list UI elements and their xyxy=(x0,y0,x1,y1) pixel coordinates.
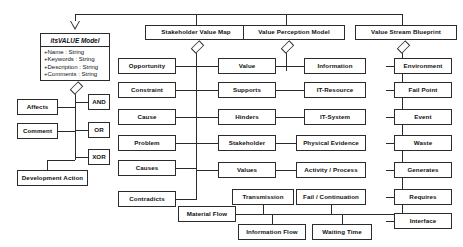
node-stakeholder-value-map[interactable]: Stakeholder Value Map xyxy=(145,25,247,40)
flow-drop-transmission xyxy=(263,205,264,214)
generalization-drop-svm xyxy=(196,14,197,25)
node-environment[interactable]: Environment xyxy=(394,58,452,74)
node-values[interactable]: Values xyxy=(218,162,276,178)
node-activity-process[interactable]: Activity / Process xyxy=(296,162,366,178)
connector-problem xyxy=(176,143,196,144)
generalization-drop-vpm xyxy=(286,14,287,25)
connector-or xyxy=(75,130,88,131)
connector-causes xyxy=(176,168,196,169)
node-causes[interactable]: Causes xyxy=(118,160,176,176)
node-contradicts[interactable]: Contradicts xyxy=(118,191,176,207)
flow-bus-line xyxy=(236,214,402,215)
connector-values xyxy=(196,170,218,171)
class-attribute: +Description : String xyxy=(44,64,106,72)
node-physical-evidence[interactable]: Physical Evidence xyxy=(296,135,366,151)
connector-stakeholder xyxy=(196,143,218,144)
connector-supports-to-vpm xyxy=(276,90,304,91)
node-material-flow[interactable]: Material Flow xyxy=(178,206,236,222)
node-constraint[interactable]: Constraint xyxy=(118,82,176,98)
node-hinders[interactable]: Hinders xyxy=(218,109,276,125)
connector-constraint xyxy=(176,90,196,91)
node-information[interactable]: Information xyxy=(304,58,366,74)
class-attributes: +Name : String +Keywords : String +Descr… xyxy=(41,47,109,81)
spine-svm xyxy=(196,51,197,200)
connector-xor xyxy=(75,157,88,158)
aggregation-diamond-root xyxy=(69,81,82,94)
node-value-stream-blueprint[interactable]: Value Stream Blueprint xyxy=(355,25,457,40)
connector-opportunity xyxy=(176,66,196,67)
connector-and xyxy=(75,102,88,103)
flow-drop-information-flow xyxy=(272,214,273,224)
node-fail-continuation[interactable]: Fail / Continuation xyxy=(296,189,366,205)
node-fail-point[interactable]: Fail Point xyxy=(394,82,452,98)
connector-contradicts xyxy=(176,199,196,200)
node-waiting-time[interactable]: Waiting Time xyxy=(312,224,372,240)
class-attribute: +Comments : String xyxy=(44,71,106,79)
class-attribute: +Keywords : String xyxy=(44,56,106,64)
node-or[interactable]: OR xyxy=(88,122,110,138)
connector-development-action-h xyxy=(47,160,75,161)
class-attribute: +Name : String xyxy=(44,49,106,57)
node-cause[interactable]: Cause xyxy=(118,109,176,125)
node-supports[interactable]: Supports xyxy=(218,82,276,98)
node-requires[interactable]: Requires xyxy=(394,189,452,205)
connector-value xyxy=(196,66,218,67)
connector-information xyxy=(286,66,304,67)
node-information-flow[interactable]: Information Flow xyxy=(238,224,306,240)
node-transmission[interactable]: Transmission xyxy=(232,189,294,205)
aggregation-diamond-vsb xyxy=(396,40,409,53)
generalization-bus-line xyxy=(75,14,402,15)
node-it-system[interactable]: IT-System xyxy=(304,109,366,125)
flow-drop-fail-continuation xyxy=(331,205,332,214)
node-generates[interactable]: Generates xyxy=(394,162,452,178)
node-comment[interactable]: Comment xyxy=(17,123,58,139)
node-value[interactable]: Value xyxy=(218,58,276,74)
node-value-perception-model[interactable]: Value Perception Model xyxy=(243,25,345,40)
node-it-resource[interactable]: IT-Resource xyxy=(304,82,366,98)
connector-value-to-vpm xyxy=(276,66,286,67)
connector-supports xyxy=(196,90,218,91)
generalization-drop-vsb xyxy=(402,14,403,25)
node-and[interactable]: AND xyxy=(88,94,110,110)
connector-affects xyxy=(58,107,75,108)
aggregation-diamond-svm xyxy=(190,40,203,53)
connector-comment xyxy=(58,131,75,132)
aggregation-diamond-vpm xyxy=(280,40,293,53)
class-title: itsVALUE Model xyxy=(41,34,109,47)
flow-drop-waiting-time xyxy=(342,214,343,224)
spine-vpm xyxy=(286,51,287,71)
node-affects[interactable]: Affects xyxy=(17,99,58,115)
node-interface[interactable]: Interface xyxy=(394,213,452,229)
connector-development-action-v xyxy=(47,160,48,170)
node-problem[interactable]: Problem xyxy=(118,135,176,151)
class-itsvalue-model[interactable]: itsVALUE Model +Name : String +Keywords … xyxy=(40,33,110,81)
node-opportunity[interactable]: Opportunity xyxy=(118,58,176,74)
node-waste[interactable]: Waste xyxy=(394,135,452,151)
uml-class-diagram: itsVALUE Model +Name : String +Keywords … xyxy=(0,0,463,247)
node-development-action[interactable]: Development Action xyxy=(17,170,88,186)
connector-cause xyxy=(176,117,196,118)
connector-hinders-to-vpm xyxy=(276,117,304,118)
connector-hinders xyxy=(196,117,218,118)
node-event[interactable]: Event xyxy=(394,109,452,125)
node-xor[interactable]: XOR xyxy=(88,149,110,165)
node-stakeholder[interactable]: Stakeholder xyxy=(218,135,276,151)
